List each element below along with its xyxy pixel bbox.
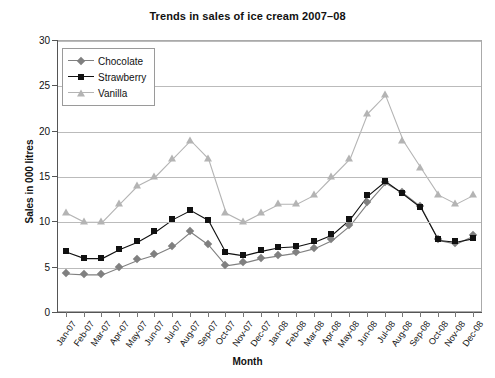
- triangle-icon: [77, 90, 85, 97]
- data-point-vanilla: [398, 136, 406, 143]
- data-point-vanilla: [97, 218, 105, 225]
- data-point-strawberry: [81, 255, 87, 261]
- data-point-strawberry: [205, 217, 211, 223]
- data-point-vanilla: [204, 154, 212, 161]
- y-tick-mark: [52, 267, 58, 268]
- data-point-vanilla: [451, 200, 459, 207]
- x-tick-mark: [402, 312, 403, 317]
- legend-label: Vanilla: [98, 88, 127, 99]
- x-tick-mark: [455, 312, 456, 317]
- x-tick-mark: [243, 312, 244, 317]
- data-point-vanilla: [80, 218, 88, 225]
- data-point-strawberry: [116, 246, 122, 252]
- data-point-strawberry: [346, 216, 352, 222]
- data-point-vanilla: [115, 200, 123, 207]
- legend-item-strawberry[interactable]: Strawberry: [68, 69, 146, 85]
- data-point-vanilla: [62, 209, 70, 216]
- data-point-vanilla: [310, 191, 318, 198]
- data-point-strawberry: [258, 247, 264, 253]
- square-icon: [78, 74, 84, 80]
- data-point-strawberry: [417, 204, 423, 210]
- data-point-strawberry: [169, 216, 175, 222]
- ice-cream-sales-chart: Trends in sales of ice cream 2007–08 051…: [0, 0, 495, 378]
- data-point-vanilla: [469, 191, 477, 198]
- data-point-strawberry: [399, 190, 405, 196]
- x-tick-mark: [349, 312, 350, 317]
- x-tick-mark: [331, 312, 332, 317]
- legend-swatch-square-icon: [68, 71, 94, 83]
- data-point-vanilla: [327, 173, 335, 180]
- x-tick-mark: [261, 312, 262, 317]
- data-point-strawberry: [187, 207, 193, 213]
- data-point-vanilla: [239, 218, 247, 225]
- y-tick-mark: [52, 221, 58, 222]
- data-point-strawberry: [275, 244, 281, 250]
- chart-title: Trends in sales of ice cream 2007–08: [0, 10, 495, 22]
- data-point-strawberry: [98, 255, 104, 261]
- data-point-strawberry: [470, 235, 476, 241]
- gridline: [58, 41, 481, 42]
- data-point-vanilla: [345, 154, 353, 161]
- x-tick-mark: [314, 312, 315, 317]
- diamond-icon: [77, 57, 85, 65]
- x-tick-mark: [367, 312, 368, 317]
- y-tick-label: 0: [4, 307, 50, 318]
- data-point-vanilla: [257, 209, 265, 216]
- data-point-strawberry: [240, 252, 246, 258]
- series-line-strawberry: [67, 182, 474, 259]
- x-tick-mark: [296, 312, 297, 317]
- y-tick-mark: [52, 312, 58, 313]
- data-point-vanilla: [292, 200, 300, 207]
- data-point-vanilla: [416, 163, 424, 170]
- data-point-strawberry: [311, 238, 317, 244]
- x-tick-mark: [154, 312, 155, 317]
- x-tick-mark: [119, 312, 120, 317]
- legend-item-chocolate[interactable]: Chocolate: [68, 53, 146, 69]
- data-point-strawberry: [134, 238, 140, 244]
- x-tick-mark: [101, 312, 102, 317]
- data-point-vanilla: [381, 91, 389, 98]
- data-point-strawberry: [435, 236, 441, 242]
- data-point-strawberry: [382, 178, 388, 184]
- x-tick-mark: [190, 312, 191, 317]
- data-point-strawberry: [222, 249, 228, 255]
- y-axis-title: Sales in 000 litres: [24, 97, 35, 267]
- legend-label: Chocolate: [98, 56, 143, 67]
- x-tick-mark: [66, 312, 67, 317]
- x-tick-mark: [208, 312, 209, 317]
- x-tick-mark: [84, 312, 85, 317]
- data-point-strawberry: [293, 243, 299, 249]
- gridline: [58, 177, 481, 178]
- x-tick-mark: [278, 312, 279, 317]
- data-point-vanilla: [434, 191, 442, 198]
- x-tick-mark: [225, 312, 226, 317]
- data-point-strawberry: [63, 248, 69, 254]
- x-tick-mark: [420, 312, 421, 317]
- x-tick-mark: [137, 312, 138, 317]
- data-point-strawberry: [328, 231, 334, 237]
- x-tick-mark: [172, 312, 173, 317]
- data-point-strawberry: [151, 228, 157, 234]
- data-point-vanilla: [133, 182, 141, 189]
- data-point-strawberry: [364, 192, 370, 198]
- series-line-chocolate: [67, 183, 474, 275]
- data-point-vanilla: [363, 109, 371, 116]
- series-line-vanilla: [67, 95, 474, 222]
- y-tick-label: 30: [4, 35, 50, 46]
- legend-item-vanilla[interactable]: Vanilla: [68, 85, 146, 101]
- y-tick-label: 25: [4, 80, 50, 91]
- data-point-vanilla: [221, 209, 229, 216]
- y-tick-mark: [52, 131, 58, 132]
- data-point-vanilla: [186, 136, 194, 143]
- x-axis-title: Month: [0, 356, 495, 367]
- data-point-strawberry: [452, 238, 458, 244]
- gridline: [58, 132, 481, 133]
- legend-label: Strawberry: [98, 72, 146, 83]
- data-point-vanilla: [168, 154, 176, 161]
- gridline: [58, 222, 481, 223]
- data-point-vanilla: [274, 200, 282, 207]
- x-tick-mark: [473, 312, 474, 317]
- y-tick-mark: [52, 176, 58, 177]
- y-tick-mark: [52, 40, 58, 41]
- legend-swatch-triangle-icon: [68, 87, 94, 99]
